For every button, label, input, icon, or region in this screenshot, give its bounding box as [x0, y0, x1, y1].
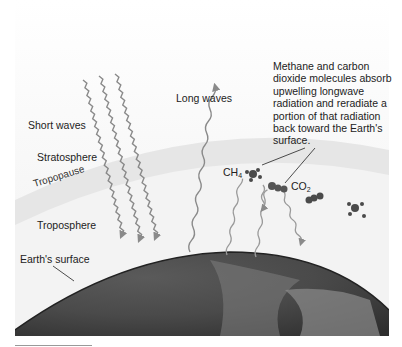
label-long-waves: Long waves — [176, 92, 232, 104]
callout-text: Methane and carbon dioxide molecules abs… — [273, 60, 395, 147]
label-ch4: CH4 — [223, 166, 242, 179]
label-short-waves: Short waves — [28, 119, 86, 131]
label-troposphere: Troposphere — [37, 219, 96, 231]
label-co2: CO2 — [291, 180, 311, 193]
label-stratosphere: Stratosphere — [37, 151, 97, 163]
footnote-rule — [15, 345, 92, 346]
label-earths-surface: Earth's surface — [20, 253, 90, 265]
